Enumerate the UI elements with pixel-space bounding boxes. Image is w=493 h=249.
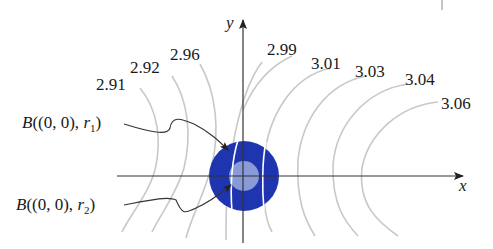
contour-label: 3.06 bbox=[441, 94, 471, 113]
contour-label: 3.01 bbox=[311, 54, 341, 73]
contour-label: 2.91 bbox=[96, 75, 126, 94]
contour-2-91 bbox=[122, 88, 158, 232]
contour-3-01 bbox=[263, 68, 331, 232]
pointer-r1 bbox=[124, 119, 228, 150]
ball-label-close: ) bbox=[90, 195, 96, 214]
contour-2-96 bbox=[186, 64, 216, 238]
contour-label: 2.96 bbox=[170, 45, 200, 64]
contour-3-06 bbox=[361, 102, 438, 236]
ball-label-b: B bbox=[22, 113, 33, 132]
ball-label-close: ) bbox=[96, 113, 102, 132]
contour-3-04 bbox=[333, 84, 408, 236]
contour-3-03 bbox=[298, 76, 366, 236]
contour-label: 2.99 bbox=[267, 40, 297, 59]
ball-label-b: B bbox=[16, 195, 27, 214]
ball-r2-label: B((0, 0), r2) bbox=[16, 195, 95, 216]
ball-label-text: ((0, 0), bbox=[32, 113, 83, 132]
contour-label: 3.04 bbox=[405, 70, 435, 89]
x-axis-label: x bbox=[458, 176, 467, 195]
ball-r1-label: B((0, 0), r1) bbox=[22, 113, 101, 134]
level-curves-figure: y x 2.91 2.92 2.96 2.99 3.01 3.03 3.04 3… bbox=[0, 0, 493, 249]
ball-label-text: ((0, 0), bbox=[26, 195, 77, 214]
contour-label: 3.03 bbox=[355, 62, 385, 81]
figure-canvas: y x 2.91 2.92 2.96 2.99 3.01 3.03 3.04 3… bbox=[0, 0, 493, 249]
contour-label: 2.92 bbox=[130, 58, 160, 77]
y-axis-label: y bbox=[224, 13, 234, 32]
